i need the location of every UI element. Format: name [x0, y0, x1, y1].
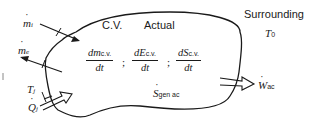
cv-label: C.V.	[102, 20, 122, 31]
entropy-rate-fraction: dSc.v. dt	[176, 47, 201, 74]
exit-mass-flow-label: me	[18, 45, 29, 56]
boundary-temp-marker-icon	[42, 92, 46, 102]
boundary-temperature-label: Tj	[27, 84, 35, 95]
work-rate-label: Wac	[258, 80, 275, 91]
inlet-mass-flow-label: mi	[23, 18, 33, 29]
separator: ;	[167, 56, 170, 68]
actual-label: Actual	[144, 20, 175, 31]
separator: ;	[122, 56, 125, 68]
mass-rate-fraction: dmc.v. dt	[86, 47, 113, 74]
control-volume-diagram: C.V. Actual Surrounding T0 mi me Tj Qj W…	[0, 0, 315, 128]
surrounding-label: Surrounding	[244, 9, 304, 20]
heat-transfer-label: Qj	[28, 102, 38, 113]
exit-arrow-icon	[20, 56, 62, 72]
surrounding-temperature: T0	[265, 28, 275, 39]
work-output-arrow-icon	[220, 77, 254, 90]
energy-rate-fraction: dEc.v. dt	[132, 47, 158, 74]
entropy-generation-label: Sgen ac	[153, 88, 180, 99]
